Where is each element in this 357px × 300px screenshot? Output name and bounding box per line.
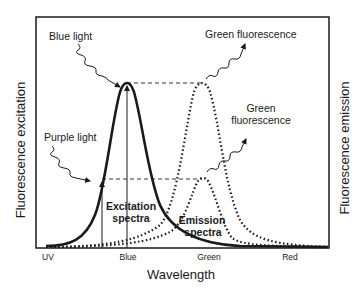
- blue-light-wavy-arrow: [77, 44, 120, 87]
- green-fluorescence-top-wavy-arrow: [206, 44, 245, 79]
- green-fluorescence-top-label: Green fluorescence: [205, 28, 297, 40]
- x-tick-green: Green: [197, 252, 221, 262]
- emission-spectra-label-line1: Emission: [179, 214, 226, 226]
- purple-light-label: Purple light: [44, 131, 97, 143]
- x-tick-uv: UV: [42, 252, 54, 262]
- excitation-spectra-label-line1: Excitation: [106, 200, 156, 212]
- emission-spectra-label-line2: spectra: [184, 226, 222, 238]
- green-fluorescence-mid-wavy-arrow: [207, 139, 246, 172]
- y-axis-left-label: Fluorescence excitation: [13, 82, 28, 219]
- fluorescence-diagram: Blue light Purple light Green fluorescen…: [0, 0, 357, 300]
- x-tick-red: Red: [282, 252, 298, 262]
- blue-light-label: Blue light: [49, 30, 92, 42]
- x-axis-label: Wavelength: [147, 267, 215, 282]
- excitation-spectra-label-line2: spectra: [112, 212, 150, 224]
- purple-light-wavy-arrow: [51, 146, 90, 181]
- green-fluorescence-mid-label-line1: Green: [246, 102, 275, 114]
- x-tick-blue: Blue: [119, 252, 136, 262]
- y-axis-right-label: Fluorescence emission: [337, 82, 352, 215]
- green-fluorescence-mid-label-line2: fluorescence: [231, 114, 291, 126]
